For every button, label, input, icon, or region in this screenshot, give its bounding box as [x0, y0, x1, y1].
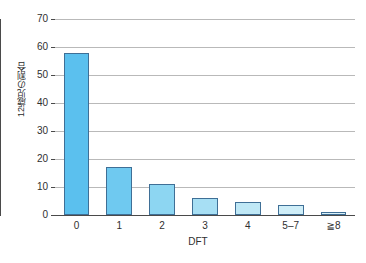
bar	[106, 167, 132, 215]
y-axis-tick-mark	[51, 19, 55, 20]
y-axis-line	[0, 19, 1, 216]
x-axis-line	[55, 215, 355, 216]
y-axis-tick-label: 20	[24, 154, 48, 164]
bar	[278, 205, 304, 215]
x-axis-tick-labels: 012345–7≧8	[55, 219, 355, 235]
y-axis-tick-label: 50	[24, 70, 48, 80]
y-axis-tick-label: 0	[24, 210, 48, 220]
y-axis-tick-mark	[51, 131, 55, 132]
y-axis-tick-mark	[51, 47, 55, 48]
bar	[321, 212, 347, 215]
y-axis-tick-label: 40	[24, 98, 48, 108]
y-axis-tick-mark	[51, 159, 55, 160]
x-axis-tick-label: 2	[141, 219, 184, 233]
bar	[64, 53, 90, 215]
x-axis-tick-label: ≧8	[312, 219, 355, 233]
x-axis-tick-label: 0	[55, 219, 98, 233]
y-axis-tick-mark	[51, 187, 55, 188]
y-axis-tick-label: 60	[24, 42, 48, 52]
y-axis-tick-mark	[51, 215, 55, 216]
y-axis-tick-mark	[51, 103, 55, 104]
x-axis-tick-label: 3	[184, 219, 227, 233]
y-axis-tick-label: 30	[24, 126, 48, 136]
x-axis-tick-label: 1	[98, 219, 141, 233]
bar-chart: 12歳児の割合 012345–7≧8 DFT 010203040506070	[0, 0, 366, 263]
y-axis-tick-label: 10	[24, 182, 48, 192]
y-axis-tick-mark	[51, 75, 55, 76]
bar	[149, 184, 175, 215]
bar-series	[55, 19, 355, 215]
y-axis-tick-label: 70	[24, 14, 48, 24]
bar	[235, 202, 261, 215]
x-axis-tick-label: 5–7	[269, 219, 312, 233]
bar	[192, 198, 218, 215]
x-axis-tick-label: 4	[226, 219, 269, 233]
x-axis-title: DFT	[0, 236, 366, 247]
